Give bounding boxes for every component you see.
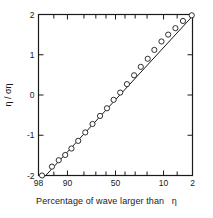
x-axis-title-symbol: η [167, 196, 177, 206]
data-point [39, 173, 44, 178]
data-point [189, 13, 194, 18]
data-point [166, 32, 171, 37]
data-point [90, 121, 95, 126]
y-tick-label: 2 [30, 10, 35, 20]
x-tick-label: 50 [111, 178, 121, 188]
chart-figure: 989050102 210-1-2 η / ση Percentage of w… [0, 0, 213, 218]
probability-plot: 989050102 210-1-2 η / ση [0, 0, 213, 218]
y-tick-label: -1 [27, 130, 35, 140]
data-point [104, 106, 109, 111]
y-tick-label: 1 [30, 50, 35, 60]
data-point [69, 146, 74, 151]
y-axis-title: η / ση [3, 83, 13, 106]
y-tick-label: 0 [30, 90, 35, 100]
data-point [145, 56, 150, 61]
data-point [56, 158, 61, 163]
data-point [138, 64, 143, 69]
x-tick-label: 90 [63, 178, 73, 188]
y-axis-title-text: η / ση [3, 83, 13, 106]
data-point [124, 82, 129, 87]
y-tick-label: -2 [27, 171, 35, 181]
data-point [118, 90, 123, 95]
data-point [63, 152, 68, 157]
data-point [180, 18, 185, 23]
data-point [49, 164, 54, 169]
x-tick-label: 2 [190, 178, 195, 188]
data-point [152, 47, 157, 52]
data-point [131, 73, 136, 78]
data-point [159, 39, 164, 44]
data-point [97, 113, 102, 118]
data-point [83, 130, 88, 135]
x-tick-label: 98 [34, 178, 44, 188]
data-point [173, 26, 178, 31]
x-axis-title-text: Percentage of wave larger than [36, 196, 164, 206]
data-point [76, 138, 81, 143]
x-tick-label: 10 [159, 178, 169, 188]
data-point [111, 97, 116, 102]
x-axis-title: Percentage of wave larger than η [0, 196, 213, 206]
